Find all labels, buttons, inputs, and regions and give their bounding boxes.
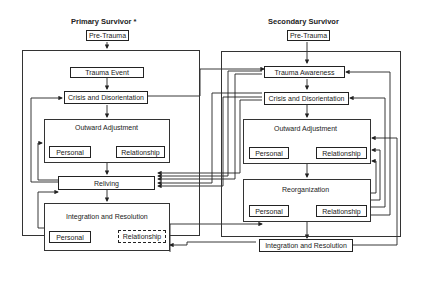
secondary-outward-personal: Personal — [249, 147, 289, 159]
primary-outward-personal: Personal — [49, 146, 91, 158]
primary-trauma-event-box: Trauma Event — [70, 67, 144, 78]
secondary-outward-label: Outward Adjustment — [274, 125, 337, 132]
secondary-pre-trauma-box: Pre-Trauma — [287, 30, 330, 41]
secondary-reorganization-relationship: Relationship — [316, 205, 367, 217]
primary-outward-label: Outward Adjustment — [75, 124, 138, 131]
primary-integration-label: Integration and Resolution — [66, 213, 148, 220]
secondary-outward-relationship: Relationship — [316, 147, 367, 159]
primary-survivor-title: Primary Survivor * — [71, 17, 136, 26]
primary-crisis-box: Crisis and Disorientation — [64, 91, 148, 104]
primary-outward-relationship: Relationship — [116, 146, 165, 158]
secondary-trauma-awareness-box: Trauma Awareness — [264, 66, 345, 78]
primary-integration-personal: Personal — [49, 231, 91, 243]
primary-pre-trauma-box: Pre-Trauma — [86, 30, 129, 41]
secondary-integration-box: Integration and Resolution — [259, 239, 353, 252]
primary-integration-group — [44, 203, 170, 251]
secondary-crisis-box: Crisis and Disorientation — [264, 92, 349, 105]
primary-reliving-box: Reliving — [58, 176, 155, 190]
primary-integration-relationship: Relationship — [118, 230, 166, 243]
secondary-reorganization-personal: Personal — [249, 205, 289, 217]
secondary-reorganization-label: Reorganization — [282, 186, 329, 193]
secondary-survivor-title: Secondary Survivor — [268, 17, 339, 26]
